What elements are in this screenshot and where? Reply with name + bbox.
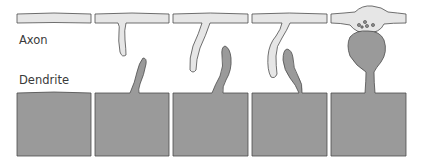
axon-band <box>95 13 169 56</box>
dendrite-label: Dendrite <box>19 73 69 87</box>
dendrite-block <box>17 92 91 156</box>
dendrite-block <box>331 31 406 156</box>
axon-bouton <box>331 6 406 33</box>
axon-band <box>17 13 91 23</box>
dendrite-block <box>95 58 169 156</box>
dendrite-block <box>173 46 248 156</box>
panel-5 <box>331 6 406 156</box>
panel-3 <box>173 13 248 156</box>
panel-4 <box>252 13 327 156</box>
dendrite-block <box>252 49 327 156</box>
axon-label: Axon <box>19 33 48 47</box>
panel-2 <box>95 13 169 156</box>
axon-band <box>173 13 248 72</box>
